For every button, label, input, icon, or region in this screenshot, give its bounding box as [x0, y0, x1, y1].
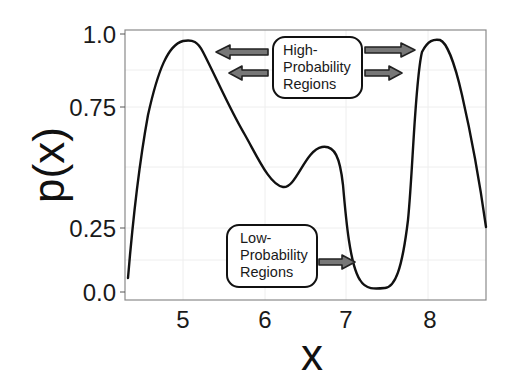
arrow-right-icon [365, 43, 415, 57]
x-tick-label: 8 [423, 306, 436, 333]
annotation-text: Regions [240, 264, 293, 280]
x-axis-title: x [301, 330, 323, 379]
density-chart: 1.0 0.75 0.25 0.0 5 6 7 8 x p(x) High- P… [0, 0, 509, 380]
x-tick-label: 5 [176, 306, 189, 333]
arrow-left-icon [216, 45, 268, 59]
arrow-right-icon [319, 255, 355, 269]
y-tick-label: 0.25 [69, 215, 116, 242]
arrow-right-icon [365, 66, 402, 80]
y-axis-ticks [120, 34, 125, 292]
x-axis-labels: 5 6 7 8 [176, 306, 436, 333]
annotation-text: Regions [283, 76, 336, 92]
y-axis-title: p(x) [24, 127, 73, 203]
high-probability-annotation: High- Probability Regions [273, 37, 362, 98]
low-probability-annotation: Low- Probability Regions [227, 225, 317, 287]
annotation-text: High- [283, 42, 318, 58]
y-tick-label: 0.75 [69, 94, 116, 121]
y-tick-label: 0.0 [83, 279, 116, 306]
annotation-text: Probability [240, 247, 308, 263]
x-tick-label: 6 [258, 306, 271, 333]
annotation-text: Low- [240, 230, 272, 246]
y-axis-labels: 1.0 0.75 0.25 0.0 [69, 21, 116, 306]
annotation-text: Probability [283, 59, 351, 75]
arrow-left-icon [229, 66, 268, 80]
y-tick-label: 1.0 [83, 21, 116, 48]
x-tick-label: 7 [339, 306, 352, 333]
